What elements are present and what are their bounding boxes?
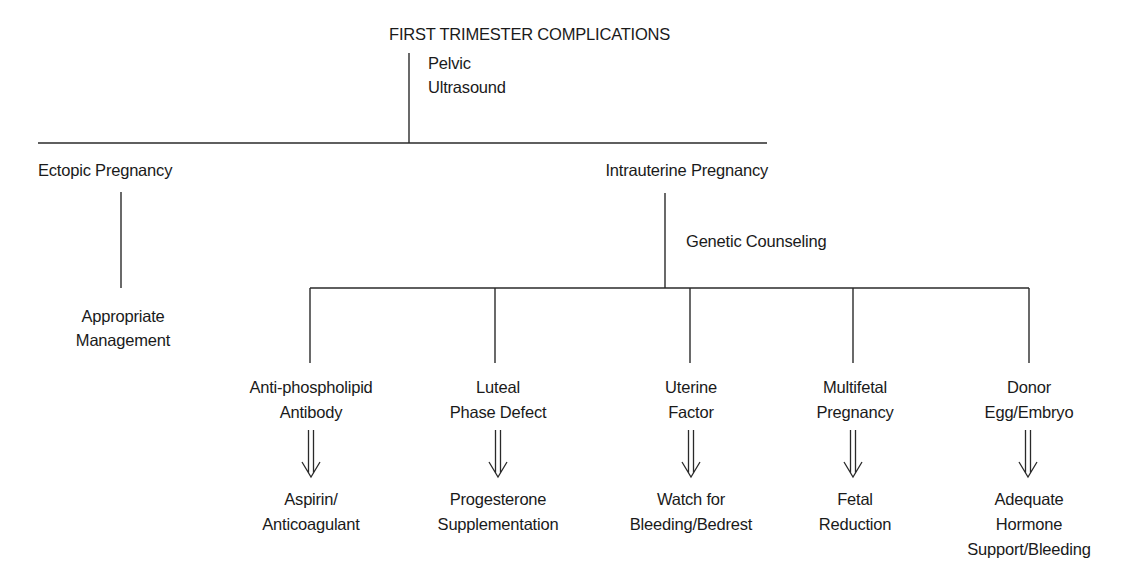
cause-node-antiphospholipid: Anti-phospholipid Antibody xyxy=(249,375,372,425)
double-down-arrow-icon xyxy=(844,430,862,477)
diagram-title: FIRST TRIMESTER COMPLICATIONS xyxy=(389,24,670,45)
cause-node-uterine-factor: Uterine Factor xyxy=(665,375,717,425)
treatment-line-2: Anticoagulant xyxy=(262,512,359,537)
treatment-line-2: Reduction xyxy=(819,512,892,537)
treatment-line-1: Progesterone xyxy=(438,487,559,512)
node-label-line-1: Appropriate xyxy=(76,304,170,328)
treatment-line-2: Hormone xyxy=(967,512,1090,537)
edge-label-line-2: Ultrasound xyxy=(428,75,506,99)
cause-line-1: Multifetal xyxy=(816,375,893,400)
treatment-line-2: Bleeding/Bedrest xyxy=(630,512,752,537)
node-label-line-2: Management xyxy=(76,328,170,352)
treatment-line-2: Supplementation xyxy=(438,512,559,537)
cause-line-2: Factor xyxy=(665,400,717,425)
cause-line-2: Antibody xyxy=(249,400,372,425)
cause-line-1: Luteal xyxy=(450,375,547,400)
node-label: Ectopic Pregnancy xyxy=(38,160,172,181)
double-down-arrow-icon xyxy=(302,430,320,477)
intrauterine-pregnancy-node: Intrauterine Pregnancy xyxy=(560,160,768,181)
cause-line-2: Pregnancy xyxy=(816,400,893,425)
root-edge-label: Pelvic Ultrasound xyxy=(428,51,506,99)
treatment-node-aspirin: Aspirin/ Anticoagulant xyxy=(262,487,359,537)
ectopic-pregnancy-node: Ectopic Pregnancy xyxy=(38,160,172,181)
node-label: Intrauterine Pregnancy xyxy=(560,160,768,181)
treatment-node-fetal-reduction: Fetal Reduction xyxy=(819,487,892,537)
cause-line-2: Egg/Embryo xyxy=(985,400,1074,425)
treatment-node-progesterone: Progesterone Supplementation xyxy=(438,487,559,537)
genetic-counseling-edge-label: Genetic Counseling xyxy=(686,231,826,252)
double-down-arrow-icon xyxy=(682,430,700,477)
cause-node-donor-egg: Donor Egg/Embryo xyxy=(985,375,1074,425)
treatment-line-3: Support/Bleeding xyxy=(967,537,1090,562)
cause-line-1: Donor xyxy=(985,375,1074,400)
edge-label: Genetic Counseling xyxy=(686,231,826,252)
treatment-line-1: Watch for xyxy=(630,487,752,512)
treatment-line-1: Aspirin/ xyxy=(262,487,359,512)
cause-line-1: Anti-phospholipid xyxy=(249,375,372,400)
treatment-node-watch-bleeding: Watch for Bleeding/Bedrest xyxy=(630,487,752,537)
double-down-arrow-icon xyxy=(1019,430,1037,477)
treatment-node-hormone-support: Adequate Hormone Support/Bleeding xyxy=(967,487,1090,562)
flowchart: FIRST TRIMESTER COMPLICATIONS Pelvic Ult… xyxy=(0,0,1139,586)
treatment-line-1: Adequate xyxy=(967,487,1090,512)
cause-line-1: Uterine xyxy=(665,375,717,400)
cause-line-2: Phase Defect xyxy=(450,400,547,425)
cause-node-multifetal: Multifetal Pregnancy xyxy=(816,375,893,425)
appropriate-management-node: Appropriate Management xyxy=(76,304,170,352)
edge-label-line-1: Pelvic xyxy=(428,51,506,75)
treatment-line-1: Fetal xyxy=(819,487,892,512)
cause-node-luteal-phase: Luteal Phase Defect xyxy=(450,375,547,425)
title-text: FIRST TRIMESTER COMPLICATIONS xyxy=(389,24,670,45)
double-down-arrow-icon xyxy=(489,430,507,477)
